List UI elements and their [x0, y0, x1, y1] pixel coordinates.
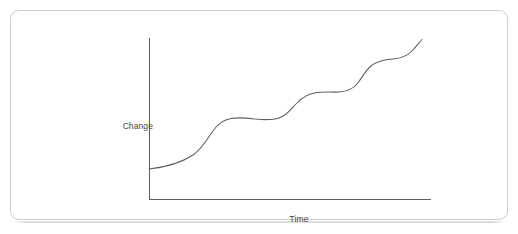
chart-plot-area: Change Time: [21, 21, 518, 231]
change-over-time-curve: [149, 40, 422, 170]
diagram-card: Change Time: [10, 10, 508, 220]
step-curve-chart-svg: [21, 21, 518, 231]
x-axis-label: Time: [259, 215, 339, 224]
y-axis-label: Change: [109, 122, 153, 131]
screenshot-stage: Change Time: [0, 0, 518, 234]
